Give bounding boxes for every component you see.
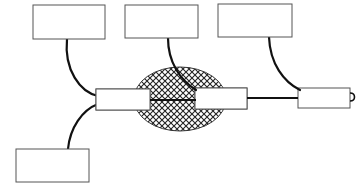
link-bottom-left: [68, 104, 98, 149]
connector-right[interactable]: [298, 88, 350, 108]
node-top-left[interactable]: [33, 5, 105, 39]
node-bottom-left[interactable]: [16, 149, 89, 182]
connector-middle-border: [195, 88, 247, 109]
link-top-right: [269, 37, 300, 90]
node-top-right[interactable]: [218, 4, 292, 37]
link-top-left: [67, 39, 98, 96]
node-top-middle[interactable]: [125, 5, 198, 38]
terminator-loop-icon: [350, 93, 355, 101]
connector-left-border: [96, 89, 150, 110]
network-diagram: [0, 0, 360, 186]
